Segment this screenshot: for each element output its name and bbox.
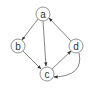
- node-d: d: [69, 39, 83, 53]
- node-b: b: [11, 39, 25, 53]
- node-a-label: a: [40, 9, 46, 20]
- node-c: c: [40, 67, 54, 81]
- graph-diagram: a b c d: [0, 0, 88, 91]
- edge-a-c: [43, 21, 46, 66]
- node-a: a: [36, 7, 50, 21]
- node-c-label: c: [45, 69, 50, 80]
- edge-d-a: [49, 18, 71, 41]
- edge-b-c: [23, 51, 41, 69]
- node-b-label: b: [15, 41, 21, 52]
- edge-d-c-curved: [54, 53, 80, 77]
- node-d-label: d: [73, 41, 79, 52]
- edge-a-b: [22, 19, 38, 40]
- edge-c-d: [52, 51, 71, 69]
